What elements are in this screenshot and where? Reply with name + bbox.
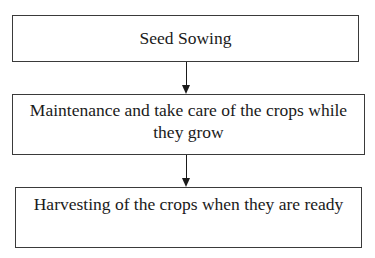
step-harvesting: Harvesting of the crops when they are re… [15, 187, 362, 248]
step-label: Maintenance and take care of the crops w… [30, 100, 347, 142]
arrow-down-icon [182, 62, 191, 94]
step-maintenance: Maintenance and take care of the crops w… [12, 94, 365, 155]
arrow-head [182, 178, 190, 187]
arrow-head [182, 85, 190, 94]
step-seed-sowing: Seed Sowing [12, 15, 359, 62]
step-label: Seed Sowing [140, 28, 232, 48]
arrow-down-icon [182, 155, 191, 187]
step-label: Harvesting of the crops when they are re… [34, 194, 344, 214]
